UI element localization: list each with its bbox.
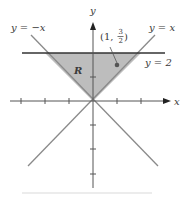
- point-label-open: (1,: [100, 31, 113, 42]
- label-y-x: y = x: [148, 22, 175, 33]
- label-y-neg-x: y = −x: [10, 22, 46, 33]
- diagram-canvas: x y y = −x y = x y = 2 R (1, 3 2 ): [0, 0, 186, 197]
- region-label: R: [73, 65, 82, 76]
- point-label-close: ): [124, 31, 128, 42]
- y-axis-arrow-icon: [90, 22, 96, 30]
- x-axis-arrow-icon: [163, 98, 171, 104]
- point-marker: [115, 63, 120, 68]
- axis-label-y: y: [89, 5, 96, 16]
- label-y-2: y = 2: [144, 57, 172, 68]
- region-diagram: x y y = −x y = x y = 2 R (1, 3 2 ): [0, 0, 186, 197]
- point-label-num: 3: [119, 28, 123, 36]
- bottom-rule: [22, 192, 152, 194]
- point-label-den: 2: [119, 37, 123, 45]
- axis-label-x: x: [174, 96, 180, 107]
